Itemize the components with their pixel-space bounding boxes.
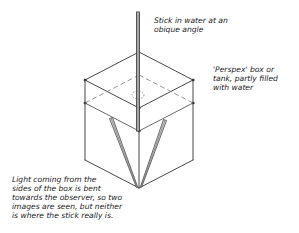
water-edge-back: [85, 75, 139, 103]
label-line: is where the stick really is.: [12, 211, 122, 220]
vertex-dot: [84, 79, 86, 81]
label-line: sides of the box is bent: [12, 184, 122, 193]
box-edge: [85, 52, 139, 80]
right-image-of-stick: [140, 119, 166, 187]
box-edge: [139, 52, 193, 80]
label-line: towards the observer, so two: [12, 193, 122, 202]
label-line: images are seen, but neither: [12, 202, 122, 211]
light-explanation-label: Light coming from thesides of the box is…: [12, 175, 122, 220]
stick: [132, 12, 144, 131]
label-line: with water: [213, 83, 278, 92]
label-line: Light coming from the: [12, 175, 122, 184]
label-line: tank, partly filled: [213, 74, 278, 83]
stick-label: Stick in water at anobique angle: [154, 16, 228, 34]
water-edge-back: [139, 75, 193, 103]
water-edge: [139, 103, 193, 131]
box-label: 'Perspex' box ortank, partly filledwith …: [213, 65, 278, 92]
label-line: Stick in water at an: [154, 16, 228, 25]
label-line: obique angle: [154, 25, 228, 34]
box-edge: [139, 80, 193, 108]
box-edge: [139, 160, 193, 188]
label-line: 'Perspex' box or: [213, 65, 278, 74]
vertex-dot: [192, 79, 194, 81]
water-edge: [85, 103, 139, 131]
stick-image-centerline: [141, 120, 165, 187]
box-edge: [85, 80, 139, 108]
